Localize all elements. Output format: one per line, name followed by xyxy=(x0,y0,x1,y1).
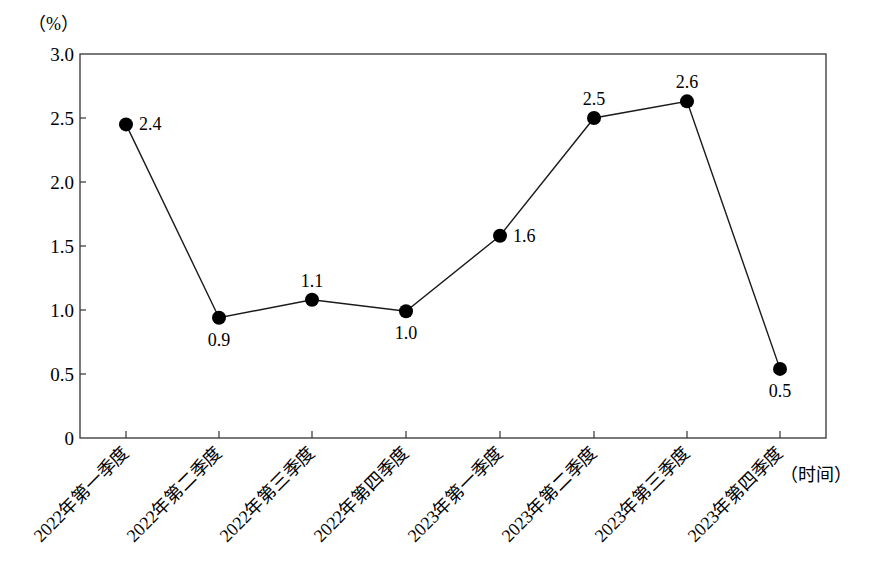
y-tick-label: 1.5 xyxy=(50,236,74,257)
data-point-marker xyxy=(119,117,133,131)
x-axis: 2022年第一季度2022年第二季度2022年第三季度2022年第四季度2023… xyxy=(30,431,787,546)
y-tick-label: 2.0 xyxy=(50,172,74,193)
line-chart: 00.51.01.52.02.53.0 2022年第一季度2022年第二季度20… xyxy=(0,0,878,582)
data-value-label: 0.9 xyxy=(208,330,231,350)
data-series: 2.40.91.11.01.62.52.60.5 xyxy=(119,72,791,401)
x-category-label: 2022年第二季度 xyxy=(123,443,226,546)
x-category-label: 2023年第一季度 xyxy=(404,443,507,546)
data-point-marker xyxy=(399,304,413,318)
data-point-marker xyxy=(212,311,226,325)
y-tick-label: 1.0 xyxy=(50,300,74,321)
data-value-label: 1.0 xyxy=(395,323,418,343)
plot-frame xyxy=(80,54,826,438)
x-category-label: 2022年第三季度 xyxy=(216,443,319,546)
x-category-label: 2022年第四季度 xyxy=(310,443,413,546)
data-point-marker xyxy=(680,94,694,108)
data-value-label: 2.5 xyxy=(583,89,606,109)
x-unit-label: （时间） xyxy=(780,465,852,485)
data-point-marker xyxy=(493,229,507,243)
y-tick-label: 0.5 xyxy=(50,364,74,385)
data-point-marker xyxy=(773,362,787,376)
x-category-label: 2023年第二季度 xyxy=(498,443,601,546)
y-unit-label: （%） xyxy=(28,14,79,34)
x-category-label: 2022年第一季度 xyxy=(30,443,133,546)
y-tick-label: 0 xyxy=(65,428,75,449)
data-value-label: 2.4 xyxy=(139,114,162,134)
data-value-label: 0.5 xyxy=(769,381,792,401)
data-value-label: 1.1 xyxy=(301,271,324,291)
data-point-marker xyxy=(305,293,319,307)
data-point-marker xyxy=(587,111,601,125)
x-category-label: 2023年第三季度 xyxy=(591,443,694,546)
y-tick-label: 3.0 xyxy=(50,44,74,65)
y-tick-label: 2.5 xyxy=(50,108,74,129)
data-value-label: 2.6 xyxy=(676,72,699,92)
x-category-label: 2023年第四季度 xyxy=(684,443,787,546)
data-value-label: 1.6 xyxy=(513,226,536,246)
